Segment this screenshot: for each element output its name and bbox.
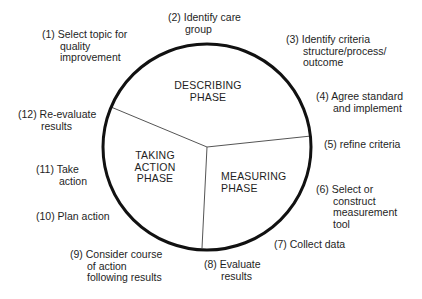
step-text: improvement (42, 52, 127, 64)
phase-label-line: MEASURING (221, 171, 286, 183)
step-text: following results (70, 272, 162, 284)
step-text: Identify criteria (302, 33, 370, 45)
step-text: Identify care (184, 11, 241, 23)
step-text: results (18, 121, 96, 133)
step-text: group (168, 24, 241, 36)
step-number: (6) (316, 183, 329, 195)
step-11: (11) Take action (36, 164, 87, 187)
step-12: (12) Re-evaluate results (18, 109, 96, 132)
step-number: (1) (42, 28, 55, 40)
step-9: (9) Consider course of action following … (70, 249, 162, 284)
step-text: and implement (316, 103, 403, 115)
phase-label-line: PHASE (221, 183, 286, 195)
step-2: (2) Identify care group (168, 12, 241, 35)
phase-label-line: PHASE (172, 92, 244, 104)
step-number: (7) (274, 238, 287, 250)
step-number: (5) (324, 138, 337, 150)
step-text: refine criteria (340, 138, 401, 150)
step-3: (3) Identify criteria structure/process/… (286, 34, 386, 69)
step-text: Select or (332, 183, 373, 195)
divider-describing-taking (111, 107, 207, 147)
phase-label-line: PHASE (125, 173, 185, 185)
step-text: Re-evaluate (40, 108, 97, 120)
step-5: (5) refine criteria (324, 139, 400, 151)
phase-measuring: MEASURING PHASE (221, 171, 286, 194)
step-text: measurement (316, 207, 397, 219)
quality-cycle-diagram: DESCRIBING PHASE TAKING ACTION PHASE MEA… (0, 0, 422, 299)
divider-describing-measuring (207, 136, 311, 147)
step-number: (12) (18, 108, 37, 120)
step-text: results (204, 271, 261, 283)
step-text: Collect data (290, 238, 345, 250)
phase-label-line: TAKING (125, 150, 185, 162)
divider-measuring-taking (202, 147, 207, 248)
step-number: (9) (70, 248, 83, 260)
step-6: (6) Select or construct measurement tool (316, 184, 397, 230)
step-number: (11) (36, 163, 54, 175)
step-number: (4) (316, 90, 329, 102)
step-text: action (36, 176, 87, 188)
step-text: Take (57, 163, 79, 175)
step-7: (7) Collect data (274, 239, 345, 251)
step-text: Select topic for (58, 28, 127, 40)
step-text: Plan action (58, 210, 110, 222)
step-8: (8) Evaluate results (204, 259, 261, 282)
step-text: Evaluate (220, 258, 261, 270)
step-text: Agree standard (331, 90, 403, 102)
phase-taking-action: TAKING ACTION PHASE (125, 150, 185, 185)
step-number: (8) (204, 258, 217, 270)
step-number: (10) (36, 210, 55, 222)
step-number: (3) (286, 33, 299, 45)
step-10: (10) Plan action (36, 211, 110, 223)
step-1: (1) Select topic for quality improvement (42, 29, 127, 64)
step-4: (4) Agree standard and implement (316, 91, 403, 114)
step-text: Consider course (86, 248, 162, 260)
phase-label-line: DESCRIBING (172, 80, 244, 92)
step-text: outcome (286, 57, 386, 69)
step-number: (2) (168, 11, 181, 23)
phase-describing: DESCRIBING PHASE (172, 80, 244, 103)
step-text: tool (316, 219, 397, 231)
